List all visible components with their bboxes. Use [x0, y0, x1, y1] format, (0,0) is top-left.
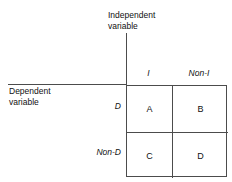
independent-variable-axis-title-line1: Independent — [108, 10, 155, 21]
horizontal-axis-line — [8, 84, 127, 85]
matrix-grid: A B C D — [126, 85, 227, 177]
row-header-d: D — [115, 101, 121, 111]
matrix-cell-b: B — [172, 86, 228, 132]
row-header-non-d: Non-D — [96, 147, 121, 157]
independent-variable-axis-title-line2: variable — [108, 21, 155, 32]
column-header-i: I — [126, 68, 171, 78]
matrix-cell-c: C — [127, 132, 172, 178]
dependent-variable-axis-title-line2: variable — [9, 97, 51, 108]
matrix-cell-d: D — [172, 132, 228, 178]
dependent-variable-axis-title-line1: Dependent — [9, 86, 51, 97]
matrix-cell-a: A — [127, 86, 172, 132]
two-by-two-matrix-diagram: Independent variable Dependent variable … — [0, 0, 232, 182]
dependent-variable-axis-title: Dependent variable — [9, 86, 51, 107]
independent-variable-axis-title: Independent variable — [108, 10, 155, 31]
column-header-non-i: Non-I — [171, 68, 227, 78]
